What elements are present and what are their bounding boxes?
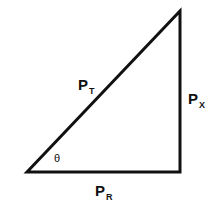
triangle-shape [27,11,180,172]
hypotenuse-label: P T [78,76,95,96]
svg-text:X: X [199,100,205,110]
svg-text:T: T [89,86,95,96]
vertical-side-label: P X [188,90,205,110]
base-label: P R [95,182,113,202]
angle-theta-label: θ [54,152,60,164]
svg-text:P: P [95,182,105,199]
svg-text:P: P [188,90,198,107]
svg-text:R: R [106,192,113,202]
power-triangle-diagram: P T P X P R θ [0,0,214,205]
svg-text:P: P [78,76,88,93]
